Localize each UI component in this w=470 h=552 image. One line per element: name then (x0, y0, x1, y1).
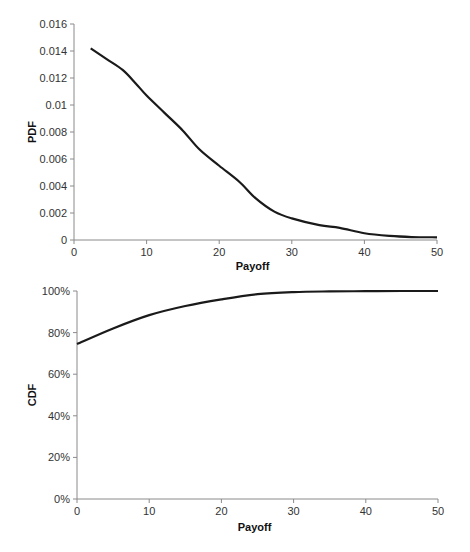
cdf-x-tick-label: 30 (287, 505, 299, 517)
pdf-y-tick-label: 0.016 (39, 18, 67, 30)
cdf-y-tick-label: 40% (48, 410, 70, 422)
pdf-x-tick-label: 40 (358, 246, 370, 258)
pdf-y-tick-label: 0.008 (39, 126, 67, 138)
cdf-x-tick-label: 50 (432, 505, 444, 517)
cdf-y-tick-label: 0% (54, 493, 70, 505)
cdf-y-tick-label: 100% (42, 285, 70, 297)
pdf-y-axis-title: PDF (26, 121, 38, 143)
pdf-y-tick-label: 0.014 (39, 45, 67, 57)
pdf-y-tick-label: 0.004 (39, 180, 67, 192)
chart-canvas: 00.0020.0040.0060.0080.010.0120.0140.016… (0, 0, 470, 552)
cdf-x-tick-label: 20 (215, 505, 227, 517)
cdf-y-tick-label: 80% (48, 327, 70, 339)
pdf-x-tick-label: 10 (140, 246, 152, 258)
cdf-y-axis-title: CDF (26, 383, 38, 406)
pdf-x-tick-label: 20 (213, 246, 225, 258)
pdf-x-axis-title: Payoff (236, 260, 270, 272)
pdf-chart: 00.0020.0040.0060.0080.010.0120.0140.016… (26, 18, 443, 272)
cdf-x-axis-title: Payoff (238, 521, 272, 533)
cdf-chart: 0%20%40%60%80%100%01020304050PayoffCDF (26, 285, 444, 533)
pdf-x-tick-label: 50 (431, 246, 443, 258)
pdf-line-series (91, 48, 437, 237)
cdf-x-tick-label: 0 (74, 505, 80, 517)
cdf-line-series (77, 291, 438, 344)
pdf-y-tick-label: 0 (61, 234, 67, 246)
cdf-x-tick-label: 40 (360, 505, 372, 517)
pdf-y-tick-label: 0.012 (39, 72, 67, 84)
pdf-y-tick-label: 0.006 (39, 153, 67, 165)
pdf-x-tick-label: 30 (286, 246, 298, 258)
cdf-y-tick-label: 20% (48, 451, 70, 463)
pdf-y-tick-label: 0.002 (39, 207, 67, 219)
cdf-y-tick-label: 60% (48, 368, 70, 380)
pdf-x-tick-label: 0 (71, 246, 77, 258)
cdf-x-tick-label: 10 (143, 505, 155, 517)
pdf-y-tick-label: 0.01 (46, 99, 67, 111)
